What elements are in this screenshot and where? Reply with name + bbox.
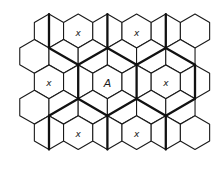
co-channel-cell-label: x	[75, 129, 82, 139]
reference-cell-label: A	[103, 77, 112, 90]
hex-cell-diagram: xxxAxxx	[0, 0, 222, 169]
co-channel-cell-label: x	[133, 129, 140, 139]
co-channel-cell-label: x	[162, 78, 169, 88]
co-channel-cell-label: x	[75, 28, 82, 38]
co-channel-cell-label: x	[133, 28, 140, 38]
co-channel-cell-label: x	[45, 78, 52, 88]
